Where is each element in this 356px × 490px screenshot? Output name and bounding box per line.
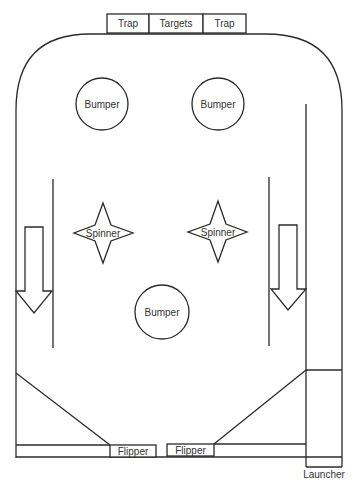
bumper-label: Bumper (84, 99, 120, 110)
spinner-label: Spinner (201, 227, 236, 238)
flipper-label: Flipper (118, 446, 149, 457)
left-trap-label: Trap (118, 18, 139, 29)
pinball-diagram: Trap Targets Trap Launcher Bumper Bumper… (0, 0, 356, 490)
targets-label: Targets (160, 18, 193, 29)
spinner-right: Spinner (188, 201, 247, 262)
left-slope (16, 373, 110, 445)
right-lane-arrow-icon (271, 225, 306, 310)
bumper-upper-left: Bumper (76, 78, 128, 130)
flipper-right: Flipper (167, 444, 214, 456)
bumper-upper-right: Bumper (192, 78, 244, 130)
spinner-label: Spinner (86, 228, 121, 239)
launcher-lane: Launcher (303, 104, 345, 480)
flipper-left: Flipper (110, 445, 156, 457)
top-target-bar: Trap Targets Trap (107, 14, 246, 33)
spinner-left: Spinner (74, 203, 133, 263)
right-slope (214, 370, 306, 444)
launcher-label: Launcher (303, 469, 345, 480)
left-lane-arrow-icon (16, 227, 52, 313)
right-trap-label: Trap (214, 18, 235, 29)
bumper-label: Bumper (144, 307, 180, 318)
bumper-center: Bumper (135, 285, 189, 339)
bumper-label: Bumper (200, 99, 236, 110)
flipper-label: Flipper (175, 445, 206, 456)
